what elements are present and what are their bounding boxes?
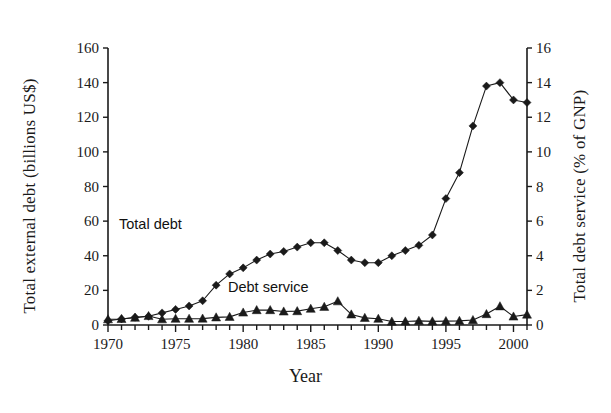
data-point-marker (334, 247, 342, 255)
data-point-marker (239, 264, 247, 272)
data-point-marker (361, 259, 369, 267)
data-point-marker (469, 122, 477, 130)
data-point-marker (253, 256, 261, 264)
data-point-marker (414, 316, 423, 324)
data-point-marker (280, 247, 288, 255)
data-point-marker (320, 302, 329, 310)
y-tick-label-right: 8 (536, 179, 544, 195)
y-tick-label-left: 140 (77, 75, 100, 91)
data-point-marker (442, 195, 450, 203)
y-tick-label-left: 160 (77, 40, 100, 56)
y-tick-label-right: 14 (536, 75, 552, 91)
data-point-marker (482, 309, 491, 317)
y-axis-left-label: Total external debt (billions US$) (20, 36, 40, 356)
x-tick-label: 2000 (498, 336, 528, 352)
data-point-marker (333, 297, 342, 305)
y-tick-label-right: 2 (536, 282, 544, 298)
x-axis: 1970197519801985199019952000 (93, 325, 528, 352)
x-tick-label: 1985 (296, 336, 326, 352)
y-axis-right: 0246810121416 (527, 40, 552, 333)
y-tick-label-right: 0 (536, 317, 544, 333)
data-point-marker (172, 305, 180, 313)
chart-figure: Total external debt (billions US$) Total… (0, 0, 611, 413)
data-point-marker (468, 315, 477, 323)
plot-area: 020406080100120140160 0246810121416 1970… (0, 0, 611, 413)
y-tick-label-left: 20 (84, 282, 99, 298)
y-tick-label-right: 16 (536, 40, 552, 56)
x-tick-label: 1975 (161, 336, 191, 352)
data-point-marker (185, 302, 193, 310)
y-tick-label-right: 12 (536, 109, 551, 125)
data-point-marker (307, 239, 315, 247)
data-point-marker (104, 317, 112, 325)
data-point-marker (293, 243, 301, 251)
data-point-marker (347, 256, 355, 264)
y-tick-label-left: 60 (84, 213, 99, 229)
data-point-marker (374, 259, 382, 267)
data-point-marker (495, 302, 504, 310)
y-tick-label-left: 120 (77, 109, 100, 125)
data-point-marker (523, 99, 531, 107)
y-tick-label-right: 10 (536, 144, 551, 160)
y-tick-label-left: 80 (84, 179, 99, 195)
data-point-marker (388, 252, 396, 260)
series-debt-service (104, 79, 531, 325)
data-point-marker (158, 309, 166, 317)
data-point-marker (320, 239, 328, 247)
y-tick-label-right: 4 (536, 248, 544, 264)
x-tick-label: 1995 (431, 336, 461, 352)
y-tick-label-left: 100 (77, 144, 100, 160)
y-tick-label-left: 40 (84, 248, 99, 264)
y-tick-label-left: 0 (92, 317, 100, 333)
data-point-marker (401, 247, 409, 255)
data-point-marker (522, 310, 531, 318)
data-point-marker (455, 169, 463, 177)
y-axis-right-label: Total debt service (% of GNP) (570, 36, 590, 356)
series-label-debt-service: Debt service (228, 279, 309, 295)
x-axis-label: Year (0, 366, 611, 387)
data-series-group (103, 79, 531, 326)
data-point-marker (482, 82, 490, 90)
y-tick-label-right: 6 (536, 213, 544, 229)
x-tick-label: 1970 (93, 336, 123, 352)
data-point-marker (266, 250, 274, 258)
series-label-total-debt: Total debt (119, 216, 182, 232)
y-axis-left: 020406080100120140160 (77, 40, 109, 333)
x-tick-label: 1990 (363, 336, 393, 352)
x-tick-label: 1980 (228, 336, 258, 352)
